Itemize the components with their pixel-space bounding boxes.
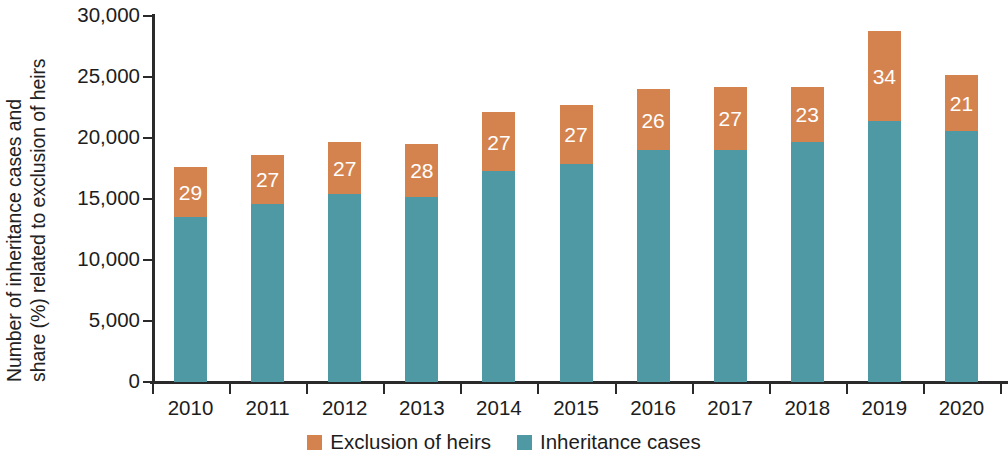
y-axis-tick-label: 20,000 xyxy=(62,125,140,149)
bar-data-label: 29 xyxy=(174,182,207,203)
y-axis-tick-label: 10,000 xyxy=(62,247,140,271)
chart-figure: Number of inheritance cases and share (%… xyxy=(0,0,1008,462)
bar-group[interactable]: 27 xyxy=(328,16,361,382)
x-axis-tick-label: 2015 xyxy=(536,396,616,420)
chart-legend: Exclusion of heirs Inheritance cases xyxy=(0,430,1008,454)
legend-item-inheritance-cases[interactable]: Inheritance cases xyxy=(517,430,701,454)
bar-data-label: 27 xyxy=(482,132,515,153)
y-axis-tick-label: 5,000 xyxy=(62,308,140,332)
bar-segment-inheritance-cases[interactable] xyxy=(482,171,515,382)
x-axis-tick-label: 2011 xyxy=(228,396,308,420)
x-axis-tick-label: 2017 xyxy=(690,396,770,420)
x-axis-tick xyxy=(229,383,231,394)
legend-item-exclusion-of-heirs[interactable]: Exclusion of heirs xyxy=(307,430,491,454)
bar-group[interactable]: 28 xyxy=(405,16,438,382)
bar-data-label: 26 xyxy=(637,110,670,131)
x-axis-tick xyxy=(1000,383,1002,394)
legend-swatch-icon xyxy=(307,435,322,450)
bar-group[interactable]: 27 xyxy=(482,16,515,382)
bar-group[interactable]: 26 xyxy=(637,16,670,382)
bar-segment-inheritance-cases[interactable] xyxy=(637,150,670,382)
y-axis-tick-label: 25,000 xyxy=(62,64,140,88)
legend-label: Inheritance cases xyxy=(540,430,701,454)
x-axis-tick-label: 2019 xyxy=(844,396,924,420)
y-axis-title-line-2: share (%) related to exclusion of heirs xyxy=(27,59,50,382)
y-axis-title: Number of inheritance cases and share (%… xyxy=(0,0,62,390)
bar-segment-inheritance-cases[interactable] xyxy=(791,142,824,382)
x-axis-tick xyxy=(615,383,617,394)
bar-group[interactable]: 27 xyxy=(560,16,593,382)
bar-data-label: 28 xyxy=(405,160,438,181)
bar-segment-inheritance-cases[interactable] xyxy=(405,197,438,382)
bar-segment-inheritance-cases[interactable] xyxy=(560,164,593,382)
x-axis-tick-label: 2020 xyxy=(921,396,1001,420)
x-axis-tick xyxy=(923,383,925,394)
legend-swatch-icon xyxy=(517,435,532,450)
x-axis-tick-label: 2012 xyxy=(305,396,385,420)
bar-group[interactable]: 27 xyxy=(714,16,747,382)
bar-data-label: 27 xyxy=(560,124,593,145)
legend-label: Exclusion of heirs xyxy=(330,430,491,454)
bar-data-label: 34 xyxy=(868,66,901,87)
bar-data-label: 23 xyxy=(791,104,824,125)
bar-data-label: 27 xyxy=(714,108,747,129)
x-axis-tick-label: 2010 xyxy=(151,396,231,420)
bar-group[interactable]: 23 xyxy=(791,16,824,382)
x-axis-tick xyxy=(769,383,771,394)
plot-area: 2927272827272627233421 xyxy=(152,16,997,382)
bar-segment-inheritance-cases[interactable] xyxy=(868,121,901,382)
x-axis-tick xyxy=(460,383,462,394)
y-axis-title-line-1: Number of inheritance cases and xyxy=(3,99,26,382)
bar-data-label: 27 xyxy=(251,169,284,190)
bar-segment-inheritance-cases[interactable] xyxy=(714,150,747,382)
bar-segment-inheritance-cases[interactable] xyxy=(174,217,207,382)
x-axis-tick-label: 2018 xyxy=(767,396,847,420)
x-axis-tick-label: 2014 xyxy=(459,396,539,420)
x-axis-tick xyxy=(537,383,539,394)
bar-segment-inheritance-cases[interactable] xyxy=(251,204,284,382)
bar-group[interactable]: 34 xyxy=(868,16,901,382)
x-axis-tick xyxy=(152,383,154,394)
y-axis-tick-label: 15,000 xyxy=(62,186,140,210)
x-axis-tick xyxy=(383,383,385,394)
bar-group[interactable]: 29 xyxy=(174,16,207,382)
bar-group[interactable]: 21 xyxy=(945,16,978,382)
x-axis-tick-label: 2013 xyxy=(382,396,462,420)
y-axis-tick-label: 0 xyxy=(62,369,140,393)
bar-group[interactable]: 27 xyxy=(251,16,284,382)
y-axis-tick-label: 30,000 xyxy=(62,3,140,27)
x-axis-tick-label: 2016 xyxy=(613,396,693,420)
bar-data-label: 27 xyxy=(328,158,361,179)
bar-data-label: 21 xyxy=(945,93,978,114)
bar-segment-inheritance-cases[interactable] xyxy=(945,131,978,382)
x-axis-tick xyxy=(692,383,694,394)
x-axis-tick xyxy=(846,383,848,394)
x-axis-tick xyxy=(306,383,308,394)
bar-segment-inheritance-cases[interactable] xyxy=(328,194,361,382)
